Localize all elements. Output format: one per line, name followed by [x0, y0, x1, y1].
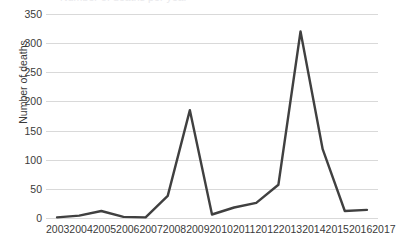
x-tick-label-2003: 2003 — [46, 224, 69, 240]
series-line-number-of-deaths — [57, 31, 367, 217]
x-tick-label-2007: 2007 — [139, 224, 162, 240]
x-tick-label-2015: 2015 — [326, 224, 349, 240]
x-tick-label-2008: 2008 — [163, 224, 186, 240]
x-tick-label-2006: 2006 — [116, 224, 139, 240]
y-tick-label-50: 50 — [14, 184, 42, 195]
y-tick-label-350: 350 — [14, 9, 42, 20]
y-tick-label-250: 250 — [14, 67, 42, 78]
x-tick-label-2016: 2016 — [349, 224, 372, 240]
chart-title-remnant: Number of deaths per year — [60, 0, 370, 3]
y-tick-label-0: 0 — [14, 213, 42, 224]
x-tick-label-2014: 2014 — [302, 224, 325, 240]
x-tick-label-2012: 2012 — [255, 224, 278, 240]
plot-area — [46, 14, 378, 218]
y-axis-tick-labels: 350300250200150100500 — [14, 0, 42, 245]
x-tick-label-2005: 2005 — [93, 224, 116, 240]
x-tick-label-2004: 2004 — [69, 224, 92, 240]
x-tick-label-2011: 2011 — [233, 224, 256, 240]
x-tick-label-2013: 2013 — [279, 224, 302, 240]
y-tick-label-200: 200 — [14, 96, 42, 107]
y-tick-label-300: 300 — [14, 38, 42, 49]
x-tick-label-2010: 2010 — [210, 224, 233, 240]
gridline-0 — [46, 218, 378, 219]
x-tick-label-2009: 2009 — [186, 224, 209, 240]
y-tick-label-100: 100 — [14, 154, 42, 165]
x-axis-tick-labels: 2003200420052006200720082009201020112012… — [46, 224, 378, 240]
x-tick-label-2017: 2017 — [372, 224, 395, 240]
series-svg — [46, 14, 378, 218]
y-tick-label-150: 150 — [14, 125, 42, 136]
